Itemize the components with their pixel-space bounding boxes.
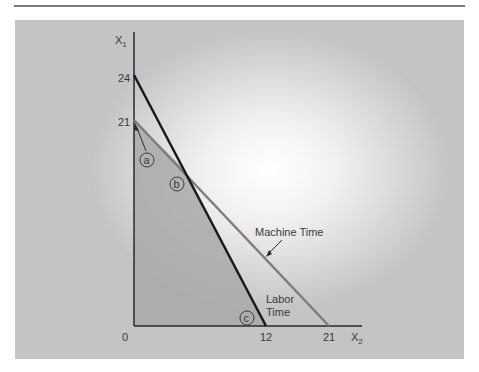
- machine-time-label: Machine Time: [255, 226, 323, 238]
- labor-time-label-line2: Time: [266, 306, 290, 318]
- point-b-label: b: [174, 178, 180, 190]
- labor-time-label-line1: Labor: [266, 293, 294, 305]
- origin-label: 0: [122, 331, 128, 343]
- y-axis-label: X1: [115, 34, 127, 49]
- x-tick-21: 21: [323, 331, 335, 343]
- feasible-region: [134, 120, 266, 326]
- lp-chart: X1 X2 24 21 0 12 21 a b c Machine Time L…: [0, 0, 479, 372]
- x-axis-label: X2: [351, 331, 363, 346]
- point-a-label: a: [144, 154, 151, 166]
- x-tick-12: 12: [260, 331, 272, 343]
- point-c-label: c: [244, 312, 250, 324]
- y-tick-24: 24: [118, 72, 130, 84]
- y-tick-21: 21: [118, 116, 130, 128]
